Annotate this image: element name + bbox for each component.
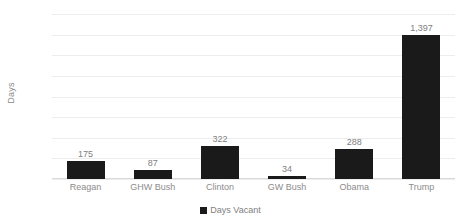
- legend-label: Days Vacant: [210, 205, 260, 215]
- bar-slot: 1,397: [388, 14, 455, 179]
- bar[interactable]: [402, 35, 440, 179]
- bar-value-label: 1,397: [388, 23, 455, 33]
- bar[interactable]: [134, 170, 172, 179]
- legend: Days Vacant: [0, 205, 461, 215]
- gridline: [52, 179, 455, 180]
- bar[interactable]: [335, 149, 373, 179]
- x-axis-tick-label: Obama: [321, 182, 388, 192]
- x-axis-tick-label: GW Bush: [254, 182, 321, 192]
- bar-value-label: 87: [119, 158, 186, 168]
- plot-area: 17587322342881,397: [52, 14, 455, 179]
- bar-slot: 288: [321, 14, 388, 179]
- x-axis-tick-label: GHW Bush: [119, 182, 186, 192]
- bar[interactable]: [67, 161, 105, 179]
- x-axis-tick-label: Clinton: [186, 182, 253, 192]
- bar-slot: 87: [119, 14, 186, 179]
- bar-value-label: 34: [254, 164, 321, 174]
- x-axis-tick-label: Reagan: [52, 182, 119, 192]
- bar-slot: 34: [254, 14, 321, 179]
- bar-value-label: 288: [321, 137, 388, 147]
- bar-series: 17587322342881,397: [52, 14, 455, 179]
- bar[interactable]: [201, 146, 239, 179]
- bar[interactable]: [268, 176, 306, 180]
- bar-chart: Days 1,6001,4001,2001,0008006004002000 1…: [0, 0, 461, 224]
- x-axis-tick-labels: ReaganGHW BushClintonGW BushObamaTrump: [52, 182, 455, 192]
- bar-slot: 175: [52, 14, 119, 179]
- bar-value-label: 175: [52, 149, 119, 159]
- y-axis-title: Days: [6, 68, 16, 118]
- bar-slot: 322: [186, 14, 253, 179]
- bar-value-label: 322: [186, 134, 253, 144]
- legend-swatch-icon: [200, 207, 207, 214]
- x-axis-tick-label: Trump: [388, 182, 455, 192]
